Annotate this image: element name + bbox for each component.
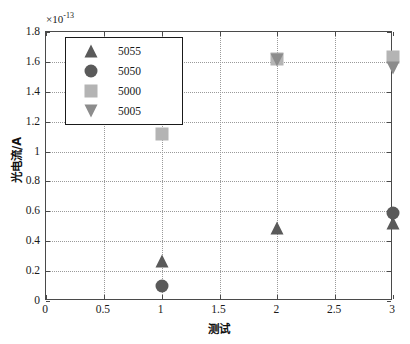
legend-item-5050[interactable]: 5050 <box>66 61 182 81</box>
y-axis-tick <box>46 62 50 63</box>
y-axis-tick <box>46 181 50 182</box>
legend-label: 5050 <box>108 65 141 77</box>
y-axis-tick <box>46 241 50 242</box>
data-point-5000 <box>155 127 169 141</box>
data-point-5005 <box>386 61 400 75</box>
x-axis-tick <box>162 295 163 299</box>
y-axis-tick <box>46 301 50 302</box>
x-axis-tick <box>393 295 394 299</box>
gridline-horizontal <box>46 152 391 153</box>
square-icon <box>74 84 108 98</box>
y-tick-label: 0.4 <box>0 234 40 246</box>
legend-label: 5005 <box>108 105 141 117</box>
x-tick-label: 2.5 <box>314 303 354 316</box>
y-axis-tick <box>387 122 391 123</box>
legend: 5055505050005005 <box>65 37 183 125</box>
x-axis-tick <box>104 295 105 299</box>
y-axis-tick <box>387 152 391 153</box>
data-point-5050 <box>386 206 400 220</box>
x-tick-label: 2 <box>256 303 296 316</box>
legend-item-5000[interactable]: 5000 <box>66 81 182 101</box>
y-axis-tick <box>387 301 391 302</box>
y-axis-tick <box>387 181 391 182</box>
y-tick-label: 1 <box>0 145 40 157</box>
gridline-vertical <box>277 32 278 299</box>
x-axis-tick <box>162 32 163 36</box>
x-axis-tick <box>335 295 336 299</box>
y-axis-exponent-prefix: ×10 <box>46 13 63 25</box>
x-axis-tick <box>335 32 336 36</box>
y-tick-label: 1.2 <box>0 115 40 127</box>
gridline-horizontal <box>46 241 391 242</box>
gridline-vertical <box>335 32 336 299</box>
y-axis-exponent-power: -13 <box>63 11 74 20</box>
x-axis-tick <box>104 32 105 36</box>
y-axis-tick <box>46 32 50 33</box>
y-tick-label: 1.8 <box>0 25 40 37</box>
x-tick-label: 1 <box>141 303 181 316</box>
legend-label: 5000 <box>108 85 141 97</box>
x-tick-label: 0 <box>25 303 65 316</box>
y-axis-tick <box>46 211 50 212</box>
y-axis-exponent: ×10-13 <box>46 11 74 25</box>
y-axis-tick <box>46 92 50 93</box>
y-axis-tick <box>46 122 50 123</box>
data-point-5005 <box>270 53 284 67</box>
triangle-up-icon <box>74 44 108 58</box>
x-axis-title: 测试 <box>45 320 392 336</box>
y-tick-label: 1.4 <box>0 85 40 97</box>
x-tick-label: 0.5 <box>83 303 123 316</box>
y-axis-tick <box>387 32 391 33</box>
y-tick-label: 0.2 <box>0 264 40 276</box>
circle-icon <box>74 64 108 78</box>
gridline-vertical <box>220 32 221 299</box>
x-axis-tick <box>220 295 221 299</box>
x-axis-tick <box>220 32 221 36</box>
x-axis-tick <box>393 32 394 36</box>
plot-area: 5055505050005005 <box>45 31 392 300</box>
y-tick-label: 0.8 <box>0 174 40 186</box>
data-point-5055 <box>155 254 169 268</box>
data-point-5055 <box>270 221 284 235</box>
y-tick-label: 0.6 <box>0 204 40 216</box>
legend-label: 5055 <box>108 45 141 57</box>
legend-item-5005[interactable]: 5005 <box>66 101 182 121</box>
y-axis-tick <box>46 152 50 153</box>
y-axis-tick <box>387 271 391 272</box>
gridline-horizontal <box>46 181 391 182</box>
x-axis-tick <box>277 295 278 299</box>
x-tick-label: 1.5 <box>199 303 239 316</box>
y-axis-tick <box>387 241 391 242</box>
triangle-down-icon <box>74 104 108 118</box>
x-axis-tick <box>277 32 278 36</box>
legend-item-5055[interactable]: 5055 <box>66 41 182 61</box>
chart-figure: ×10-13 光电流/A 测试 00.20.40.60.811.21.41.61… <box>0 0 410 344</box>
y-axis-tick <box>387 92 391 93</box>
gridline-horizontal <box>46 211 391 212</box>
y-tick-label: 1.6 <box>0 55 40 67</box>
gridline-horizontal <box>46 271 391 272</box>
y-axis-tick <box>46 271 50 272</box>
x-axis-tick <box>46 295 47 299</box>
data-point-5050 <box>155 279 169 293</box>
x-tick-label: 3 <box>372 303 410 316</box>
